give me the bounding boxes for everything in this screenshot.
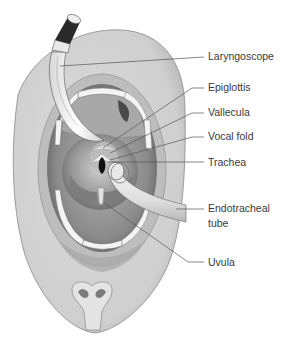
label-vocal-fold: Vocal fold (208, 130, 254, 142)
label-epiglottis: Epiglottis (208, 81, 251, 93)
label-vallecula: Vallecula (208, 106, 250, 118)
label-endotracheal-tube-line2: tube (208, 217, 229, 229)
laryngoscopy-diagram: Laryngoscope Epiglottis Vallecula Vocal … (0, 0, 291, 344)
tube-tip (108, 162, 124, 180)
label-endotracheal-tube: Endotracheal (208, 202, 270, 214)
label-laryngoscope: Laryngoscope (208, 50, 274, 62)
uvula (98, 188, 104, 205)
label-uvula: Uvula (208, 256, 235, 268)
label-trachea: Trachea (208, 156, 246, 168)
